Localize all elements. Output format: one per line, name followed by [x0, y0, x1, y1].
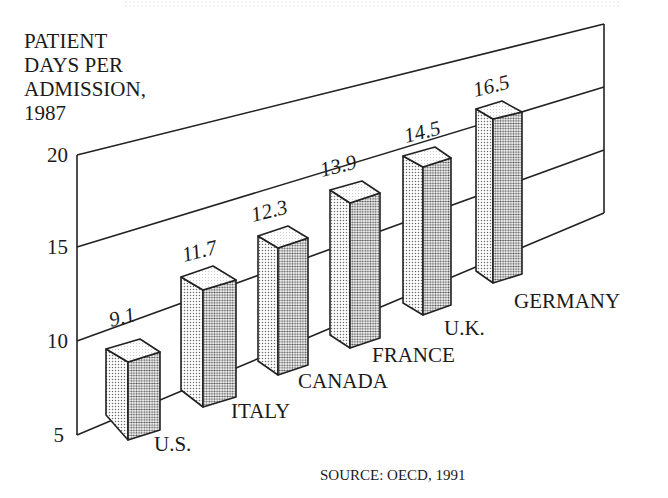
category-label-france: FRANCE [372, 343, 455, 367]
bar-italy [181, 266, 236, 407]
y-axis-title: PATIENT DAYS PER ADMISSION, 1987 [24, 29, 146, 125]
category-label-italy: ITALY [231, 399, 290, 423]
y-tick-20: 20 [47, 143, 68, 167]
y-tick-labels: 20 15 10 5 [47, 143, 68, 447]
bar-germany [476, 101, 522, 283]
gridline-20 [77, 24, 604, 155]
value-label-canada: 12.3 [248, 195, 289, 227]
category-label-uk: U.K. [444, 316, 485, 340]
value-label-uk: 14.5 [401, 116, 442, 148]
chart-canvas: PATIENT DAYS PER ADMISSION, 1987 20 15 1… [0, 0, 668, 498]
value-label-us: 9.1 [106, 302, 137, 332]
top-texture-strip [125, 0, 620, 7]
y-tick-15: 15 [47, 235, 68, 259]
y-tick-5: 5 [54, 423, 65, 447]
value-label-france: 13.9 [317, 150, 359, 182]
value-label-italy: 11.7 [179, 235, 220, 267]
category-label-germany: GERMANY [514, 289, 620, 313]
y-tick-10: 10 [47, 329, 68, 353]
y-title-line-2: DAYS PER [24, 53, 123, 77]
value-label-germany: 16.5 [470, 70, 511, 102]
y-title-line-1: PATIENT [24, 29, 107, 53]
source-note: SOURCE: OECD, 1991 [320, 467, 465, 483]
bar-uk [403, 147, 451, 315]
y-title-line-3: ADMISSION, [24, 77, 146, 101]
category-label-canada: CANADA [298, 369, 389, 393]
bar-us [106, 339, 160, 440]
y-title-line-4: 1987 [24, 101, 66, 125]
bar-canada [258, 226, 308, 375]
bar-france [330, 181, 380, 348]
category-label-us: U.S. [154, 432, 191, 456]
